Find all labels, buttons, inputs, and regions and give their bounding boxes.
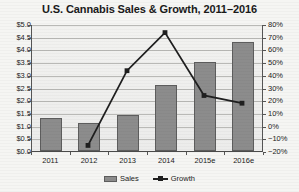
y-axis-right-tick-label: 80% — [268, 21, 298, 29]
y-axis-left-tick-label: $2.5 — [1, 85, 31, 93]
y-axis-left-tick-label: $3.5 — [1, 59, 31, 67]
y-axis-right-tickmark — [263, 89, 266, 90]
y-axis-right-tickmark — [263, 139, 266, 140]
y-axis-right-tickmark — [263, 114, 266, 115]
legend-marker-square — [158, 176, 163, 181]
chart-container: U.S. Cannabis Sales & Growth, 2011–2016 … — [0, 0, 299, 192]
y-axis-right-tick-label: 50% — [268, 59, 298, 67]
y-axis-right-tick-label: 30% — [268, 85, 298, 93]
y-axis-left-tick-label: $4.0 — [1, 46, 31, 54]
x-axis-label-2013: 2013 — [108, 156, 147, 165]
bar-2012[interactable] — [78, 123, 100, 151]
y-axis-right-tick-label: 60% — [268, 46, 298, 54]
y-axis-left-tick-label: $1.5 — [1, 110, 31, 118]
bar-2015e[interactable] — [194, 62, 216, 151]
y-axis-right-tick-label: 70% — [268, 34, 298, 42]
plot-area — [31, 25, 263, 152]
x-axis-label-2015e: 2015e — [186, 156, 225, 165]
x-axis-tickmark — [186, 152, 187, 155]
y-axis-right-tickmark — [263, 76, 266, 77]
gridline — [32, 76, 262, 77]
legend-label-sales: Sales — [120, 174, 139, 183]
gridline — [32, 114, 262, 115]
legend-swatch-sales-icon — [104, 176, 117, 182]
bar-2016e[interactable] — [232, 42, 254, 151]
y-axis-left-tick-label: $2.0 — [1, 97, 31, 105]
y-axis-right-tick-label: 10% — [268, 110, 298, 118]
x-axis-tickmark — [224, 152, 225, 155]
legend-item-growth[interactable]: Growth — [153, 174, 195, 183]
bar-2011[interactable] — [40, 118, 62, 151]
x-axis-label-2011: 2011 — [31, 156, 70, 165]
chart-legend: Sales Growth — [0, 174, 299, 183]
x-axis-tickmark — [108, 152, 109, 155]
y-axis-right-tick-label: −20% — [268, 148, 298, 156]
legend-item-sales[interactable]: Sales — [104, 174, 139, 183]
legend-swatch-growth-icon — [153, 175, 168, 182]
y-axis-left-tick-label: $1.0 — [1, 123, 31, 131]
x-axis-tickmark — [70, 152, 71, 155]
gridline — [32, 38, 262, 39]
x-axis-label-2014: 2014 — [147, 156, 186, 165]
gridline — [32, 139, 262, 140]
x-axis-tickmark — [147, 152, 148, 155]
y-axis-right-tick-label: 0% — [268, 123, 298, 131]
x-axis-label-2016e: 2016e — [224, 156, 263, 165]
gridline — [32, 89, 262, 90]
y-axis-right-tickmark — [263, 63, 266, 64]
x-axis-tickmark — [31, 152, 32, 155]
chart-title: U.S. Cannabis Sales & Growth, 2011–2016 — [0, 3, 299, 15]
bar-2014[interactable] — [155, 85, 177, 151]
x-axis-label-2012: 2012 — [70, 156, 109, 165]
y-axis-right-tick-label: 20% — [268, 97, 298, 105]
y-axis-right-tickmark — [263, 25, 266, 26]
y-axis-left-tick-label: $0.0 — [1, 148, 31, 156]
y-axis-left-tick-label: $4.5 — [1, 34, 31, 42]
y-axis-right-tickmark — [263, 101, 266, 102]
y-axis-right-tickmark — [263, 50, 266, 51]
y-axis-right-tickmark — [263, 127, 266, 128]
y-axis-left-tick-label: $3.0 — [1, 72, 31, 80]
gridline — [32, 25, 262, 26]
gridline — [32, 127, 262, 128]
y-axis-right-tickmark — [263, 38, 266, 39]
x-axis-tickmark — [263, 152, 264, 155]
legend-label-growth: Growth — [171, 174, 195, 183]
y-axis-right-tick-label: 40% — [268, 72, 298, 80]
y-axis-left-tick-label: $5.0 — [1, 21, 31, 29]
y-axis-right-tick-label: −10% — [268, 135, 298, 143]
bar-2013[interactable] — [117, 115, 139, 151]
gridline — [32, 101, 262, 102]
gridline — [32, 50, 262, 51]
gridline — [32, 63, 262, 64]
y-axis-left-tick-label: $0.5 — [1, 135, 31, 143]
